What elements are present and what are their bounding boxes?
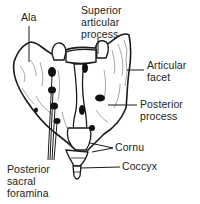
foramen-left-1: [48, 67, 56, 77]
label-superior-articular-process: Superior articular process: [81, 4, 122, 40]
sacrum-diagram: Ala Superior articular process Articular…: [0, 0, 200, 204]
label-posterior-sacral-foramina: Posterior sacral foramina: [7, 163, 50, 199]
label-coccyx: Coccyx: [122, 160, 157, 172]
label-ala: Ala: [21, 11, 36, 23]
shadow-spot: [34, 108, 38, 113]
foramen-left-3: [50, 103, 58, 110]
label-posterior-process: Posterior process: [140, 98, 183, 122]
label-cornu: Cornu: [115, 141, 144, 153]
leader-coccyx: [80, 167, 120, 168]
foramen-right-4: [89, 125, 95, 131]
label-articular-facet: Articular facet: [147, 59, 186, 83]
foramen-left-2: [48, 87, 56, 94]
foramen-right-2: [95, 95, 105, 102]
leader-cornu-2: [92, 148, 113, 152]
coccyx: [66, 150, 88, 179]
foramen-right-1: [82, 63, 88, 73]
foramen-right-3: [79, 105, 85, 115]
